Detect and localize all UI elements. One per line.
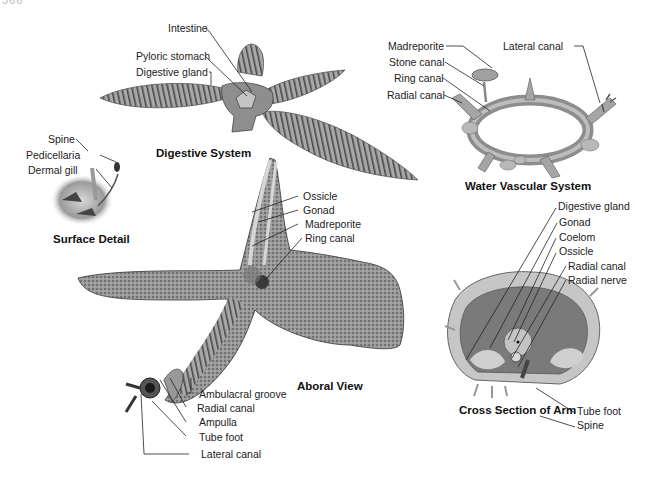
- label-stone-canal: Stone canal: [389, 56, 444, 68]
- label-cs-spine: Spine: [577, 419, 604, 431]
- label-gonad: Gonad: [303, 204, 335, 216]
- aboral-view-illustration: [78, 158, 404, 412]
- label-madreporite-aboral: Madreporite: [305, 218, 361, 230]
- label-ampulla: Ampulla: [199, 416, 237, 428]
- label-lateral-canal: Lateral canal: [503, 40, 563, 52]
- label-spine: Spine: [48, 133, 75, 145]
- water-vascular-system-illustration: [452, 69, 616, 178]
- label-ring-canal-aboral: Ring canal: [305, 232, 355, 244]
- label-cs-coelom: Coelom: [559, 231, 595, 243]
- label-cs-radial-nerve: Radial nerve: [568, 274, 627, 286]
- digestive-system-illustration: [100, 44, 418, 180]
- caption-cross-section-of-arm: Cross Section of Arm: [459, 404, 576, 416]
- label-cs-digestive-gland: Digestive gland: [558, 200, 630, 212]
- cross-section-illustration: [445, 272, 600, 398]
- label-radial-canal: Radial canal: [387, 89, 445, 101]
- label-ossicle: Ossicle: [303, 190, 337, 202]
- label-pyloric-stomach: Pyloric stomach: [136, 50, 210, 62]
- label-digestive-gland: Digestive gland: [136, 66, 208, 78]
- caption-digestive-system: Digestive System: [156, 147, 251, 159]
- label-radial-canal-tube: Radial canal: [197, 402, 255, 414]
- label-tube-foot: Tube foot: [199, 431, 243, 443]
- caption-water-vascular-system: Water Vascular System: [465, 180, 591, 192]
- tube-foot-detail: [126, 369, 183, 412]
- label-cs-ossicle: Ossicle: [559, 245, 593, 257]
- caption-aboral-view: Aboral View: [297, 380, 363, 392]
- label-cs-tube-foot: Tube foot: [577, 405, 621, 417]
- label-pedicellaria: Pedicellaria: [26, 149, 80, 161]
- label-dermal-gill: Dermal gill: [28, 164, 78, 176]
- starfish-anatomy-diagram: 366: [0, 0, 648, 479]
- caption-surface-detail: Surface Detail: [53, 233, 130, 245]
- label-madreporite: Madreporite: [388, 40, 444, 52]
- label-ambulacral-groove: Ambulacral groove: [199, 388, 287, 400]
- label-lateral-canal-tube: Lateral canal: [201, 448, 261, 460]
- label-cs-radial-canal: Radial canal: [568, 260, 626, 272]
- label-cs-gonad: Gonad: [559, 216, 591, 228]
- label-intestine: Intestine: [168, 22, 208, 34]
- label-ring-canal: Ring canal: [394, 72, 444, 84]
